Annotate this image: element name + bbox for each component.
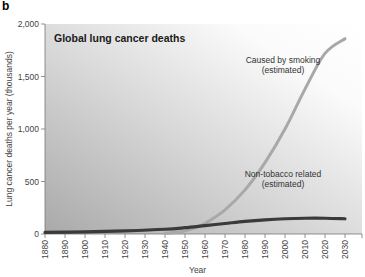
x-tick-label: 2020 xyxy=(320,240,330,259)
y-axis-label: Lung cancer deaths per year (thousands) xyxy=(4,51,14,207)
x-tick-label: 1920 xyxy=(120,240,130,259)
annotation-non-tobacco: Non-tobacco related xyxy=(245,169,322,179)
x-tick-label: 1990 xyxy=(260,240,270,259)
x-axis-label: Year xyxy=(189,265,206,275)
x-tick-label: 1970 xyxy=(220,240,230,259)
x-tick-label: 1880 xyxy=(40,240,50,259)
y-tick-label: 1,000 xyxy=(18,124,40,134)
x-tick-label: 1890 xyxy=(60,240,70,259)
x-tick-label: 2010 xyxy=(300,240,310,259)
annotation-smoking: Caused by smoking xyxy=(246,55,321,65)
x-tick-label: 1960 xyxy=(200,240,210,259)
y-tick-label: 0 xyxy=(34,229,39,239)
x-tick-label: 1980 xyxy=(240,240,250,259)
y-tick-label: 500 xyxy=(25,177,39,187)
y-tick-label: 2,000 xyxy=(18,19,40,29)
annotation-non-tobacco: (estimated) xyxy=(262,179,305,189)
x-tick-label: 1930 xyxy=(140,240,150,259)
x-tick-label: 1950 xyxy=(180,240,190,259)
line-chart: 05001,0001,5002,000188018901900191019201… xyxy=(0,0,365,277)
x-tick-label: 2030 xyxy=(340,240,350,259)
y-tick-label: 1,500 xyxy=(18,72,40,82)
x-tick-label: 2000 xyxy=(280,240,290,259)
x-tick-label: 1910 xyxy=(100,240,110,259)
annotation-smoking: (estimated) xyxy=(262,65,305,75)
x-tick-label: 1900 xyxy=(80,240,90,259)
chart-title: Global lung cancer deaths xyxy=(54,32,185,44)
x-tick-label: 1940 xyxy=(160,240,170,259)
